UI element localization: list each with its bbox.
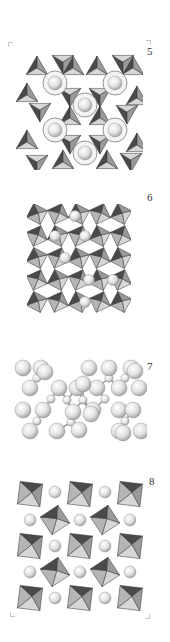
crop-mark xyxy=(145,614,150,619)
structure-6-diagram xyxy=(27,204,131,314)
crop-mark xyxy=(10,612,15,617)
structure-8-label: 8 xyxy=(149,476,155,487)
structure-7-diagram xyxy=(13,358,147,442)
structure-5-diagram xyxy=(15,50,143,170)
structure-6-label: 6 xyxy=(147,192,153,203)
crop-mark xyxy=(146,40,151,45)
crop-mark xyxy=(8,42,13,47)
structure-7-label: 7 xyxy=(147,361,153,372)
structure-8-diagram xyxy=(15,478,145,614)
structure-5-label: 5 xyxy=(147,46,153,57)
